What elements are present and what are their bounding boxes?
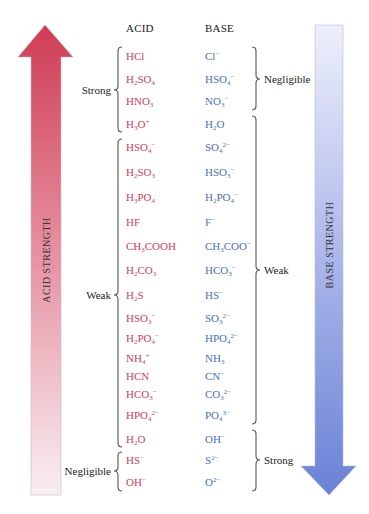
acid-formula: HSO4− bbox=[126, 141, 155, 153]
conjugate-base-formula: H2PO4− bbox=[205, 191, 238, 203]
acid-formula: HPO42− bbox=[126, 409, 159, 421]
acid-formula: H3O+ bbox=[126, 118, 149, 130]
conjugate-base-formula: HCO3− bbox=[205, 264, 236, 276]
acid-formula: H2O bbox=[126, 433, 145, 445]
conjugate-base-formula: SO32− bbox=[205, 312, 230, 324]
acid-formula: HCO3− bbox=[126, 388, 157, 400]
acid-formula: HNO3 bbox=[126, 95, 153, 107]
acid-formula: H3PO4 bbox=[126, 191, 155, 203]
conjugate-base-formula: H2O bbox=[205, 118, 224, 130]
acid-formula: H2SO3 bbox=[126, 166, 155, 178]
acid-column-header: ACID bbox=[126, 22, 154, 34]
base-column-header: BASE bbox=[205, 22, 234, 34]
acid-formula: H2PO4− bbox=[126, 332, 159, 344]
acid-group-label: Negligible bbox=[65, 465, 111, 477]
conjugate-base-formula: S2− bbox=[205, 454, 219, 466]
conjugate-base-formula: NO3− bbox=[205, 95, 228, 107]
conjugate-base-formula: SO42− bbox=[205, 141, 230, 153]
base-group-brace bbox=[252, 116, 260, 424]
acid-formula: H2CO3 bbox=[126, 264, 156, 276]
conjugate-base-formula: HPO42− bbox=[205, 332, 238, 344]
base-group-label: Strong bbox=[264, 454, 293, 466]
base-strength-label: BASE STRENGTH bbox=[324, 202, 335, 289]
base-group-brace bbox=[252, 430, 260, 491]
acid-formula: HCN bbox=[126, 370, 149, 382]
acid-formula: HCl bbox=[126, 50, 144, 62]
acid-group-brace bbox=[114, 139, 122, 447]
acid-group-brace bbox=[114, 47, 122, 132]
conjugate-base-formula: HSO3− bbox=[205, 166, 234, 178]
acid-group-label: Strong bbox=[82, 84, 111, 96]
conjugate-base-formula: OH− bbox=[205, 433, 225, 445]
base-group-label: Weak bbox=[264, 264, 289, 276]
acid-group-brace bbox=[114, 452, 122, 491]
diagram-graphics bbox=[0, 0, 369, 514]
acid-formula: HF bbox=[126, 216, 140, 228]
acid-formula: OH− bbox=[126, 476, 146, 488]
acid-formula: HS− bbox=[126, 454, 144, 466]
acid-formula: HSO3− bbox=[126, 312, 155, 324]
conjugate-base-formula: HS− bbox=[205, 289, 223, 301]
conjugate-base-formula: Cl− bbox=[205, 50, 219, 62]
conjugate-base-formula: CO32− bbox=[205, 388, 231, 400]
acid-group-label: Weak bbox=[86, 289, 111, 301]
acid-formula: CH3COOH bbox=[126, 240, 176, 252]
acid-formula: H2S bbox=[126, 289, 144, 301]
acid-strength-label: ACID STRENGTH bbox=[41, 217, 52, 303]
conjugate-base-formula: NH3 bbox=[205, 352, 224, 364]
conjugate-base-formula: O2− bbox=[205, 476, 220, 488]
base-group-label: Negligible bbox=[264, 73, 310, 85]
conjugate-base-formula: PO43− bbox=[205, 409, 230, 421]
base-group-brace bbox=[252, 47, 260, 110]
conjugate-base-formula: HSO4− bbox=[205, 73, 234, 85]
conjugate-base-formula: F− bbox=[205, 216, 215, 228]
conjugate-base-formula: CH3COO− bbox=[205, 240, 251, 252]
conjugate-base-formula: CN− bbox=[205, 370, 224, 382]
acid-formula: NH4+ bbox=[126, 352, 149, 364]
acid-formula: H2SO4 bbox=[126, 73, 155, 85]
